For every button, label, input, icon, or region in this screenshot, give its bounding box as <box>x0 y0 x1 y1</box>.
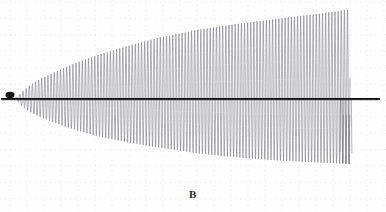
oscillation-plot <box>0 0 386 212</box>
figure-panel-b: B <box>0 0 386 212</box>
origin-blob-marker <box>6 92 15 98</box>
waveform-trace <box>16 10 352 164</box>
panel-caption: B <box>0 188 386 201</box>
